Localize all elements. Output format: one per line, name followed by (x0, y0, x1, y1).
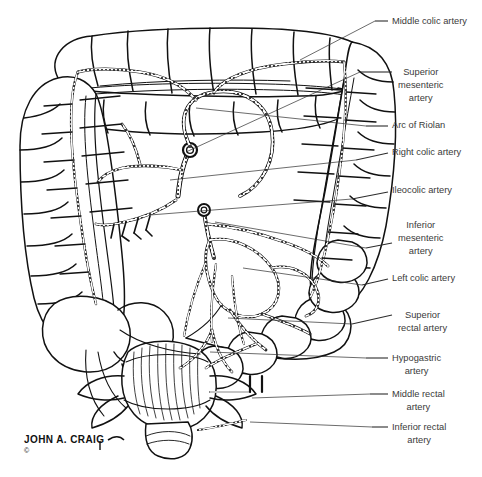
label-ileocolic-artery: Ileocolic artery (392, 185, 452, 195)
label-line: Arc of Riolan (392, 120, 445, 130)
label-line: Middle colic artery (392, 16, 467, 26)
label-line: Hypogastric (392, 353, 441, 363)
label-line: Superior (405, 310, 440, 320)
copyright-symbol: © (24, 447, 30, 454)
illustration-canvas: Middle colic arterySuperiormesentericart… (0, 0, 482, 477)
label-line: mesenteric (398, 233, 444, 243)
label-line: Inferior rectal (392, 422, 446, 432)
label-right-colic-artery: Right colic artery (392, 147, 462, 157)
label-line: artery (405, 366, 429, 376)
label-line: Inferior (406, 220, 435, 230)
anal-canal (146, 422, 193, 459)
signature-text: JOHN A. CRAIG (24, 434, 104, 445)
label-line: Superior (403, 67, 438, 77)
label-left-colic-artery: Left colic artery (392, 273, 455, 283)
colon-arterial-supply-figure: Middle colic arterySuperiormesentericart… (0, 0, 482, 477)
label-line: Right colic artery (392, 147, 462, 157)
label-arc-of-riolan: Arc of Riolan (392, 120, 445, 130)
label-line: Middle rectal (392, 389, 445, 399)
label-line: artery (409, 246, 433, 256)
label-line: rectal artery (398, 323, 447, 333)
label-line: artery (407, 435, 431, 445)
label-line: artery (406, 402, 430, 412)
label-line: Ileocolic artery (392, 185, 452, 195)
label-middle-colic-artery: Middle colic artery (392, 16, 467, 26)
label-line: artery (409, 93, 433, 103)
label-line: Left colic artery (392, 273, 455, 283)
label-line: mesenteric (398, 80, 444, 90)
